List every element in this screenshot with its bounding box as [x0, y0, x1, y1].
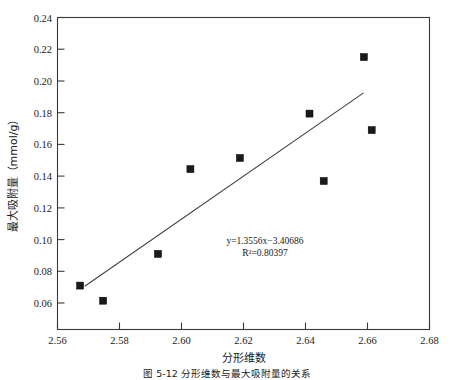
y-tick-label: 0.20	[34, 76, 52, 87]
r-squared-annotation: R²=0.80397	[242, 248, 288, 258]
y-tick-label: 0.12	[34, 203, 52, 214]
x-tick-label: 2.60	[172, 335, 190, 346]
y-tick-label: 0.16	[34, 139, 52, 150]
equation-annotation: y=1.3556x−3.40686	[226, 236, 303, 246]
figure-caption: 图 5-12 分形维数与最大吸附量的关系	[143, 368, 311, 379]
y-tick-marks	[58, 18, 65, 304]
x-axis-title: 分形维数	[222, 352, 266, 365]
data-point	[77, 282, 84, 289]
x-tick-label: 2.66	[358, 335, 376, 346]
x-tick-label: 2.68	[420, 335, 438, 346]
data-point	[100, 297, 107, 304]
y-tick-label: 0.14	[34, 171, 53, 182]
figure-container: 0.24 0.22 0.20 0.18 0.16 0.14 0.12 0.10 …	[0, 0, 454, 380]
y-tick-label: 0.18	[34, 108, 52, 119]
x-tick-label: 2.58	[110, 335, 128, 346]
y-tick-label: 0.08	[34, 266, 52, 277]
y-tick-labels: 0.24 0.22 0.20 0.18 0.16 0.14 0.12 0.10 …	[34, 13, 53, 310]
data-point	[306, 110, 313, 117]
x-tick-labels: 2.56 2.58 2.60 2.62 2.64 2.66 2.68	[48, 335, 438, 346]
data-point	[368, 127, 375, 134]
y-tick-label: 0.06	[34, 298, 52, 309]
y-tick-label: 0.22	[34, 44, 52, 55]
chart-canvas: 0.24 0.22 0.20 0.18 0.16 0.14 0.12 0.10 …	[0, 0, 454, 380]
x-tick-label: 2.62	[234, 335, 252, 346]
plot-frame	[58, 18, 430, 330]
y-tick-label: 0.10	[34, 235, 52, 246]
data-point	[187, 166, 194, 173]
data-point	[360, 54, 367, 61]
x-tick-marks	[58, 323, 430, 330]
data-point	[236, 155, 243, 162]
regression-line	[85, 93, 364, 286]
y-tick-label: 0.24	[34, 13, 53, 24]
x-tick-label: 2.64	[296, 335, 315, 346]
data-point	[320, 178, 327, 185]
y-axis-title: 最大吸附量（mmol/g）	[6, 114, 20, 233]
data-point	[155, 250, 162, 257]
data-points	[77, 54, 376, 305]
scatter-plot-svg: 0.24 0.22 0.20 0.18 0.16 0.14 0.12 0.10 …	[0, 0, 454, 380]
x-tick-label: 2.56	[48, 335, 66, 346]
